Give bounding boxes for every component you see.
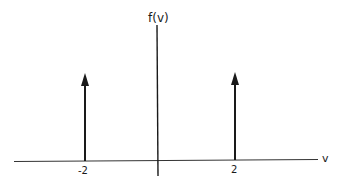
impulse-arrow-left (81, 73, 89, 161)
x-axis (14, 160, 318, 162)
tick-label-neg2: -2 (78, 165, 88, 176)
tick-label-2: 2 (231, 164, 237, 175)
impulse-arrow-right (231, 72, 239, 160)
impulse-diagram: f(v) v -2 2 (0, 0, 338, 192)
diagram-canvas: f(v) v -2 2 (0, 0, 338, 192)
y-axis-label: f(v) (148, 11, 169, 25)
arrowhead-icon (81, 73, 89, 86)
y-axis (157, 25, 158, 176)
arrowhead-icon (231, 72, 239, 85)
x-axis-label: v (322, 152, 329, 165)
